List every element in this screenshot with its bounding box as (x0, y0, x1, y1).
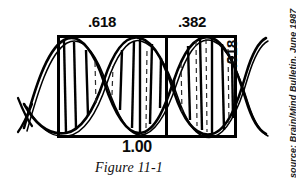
dna-double-helix-drawing (0, 0, 296, 184)
inner-rung (95, 62, 96, 104)
rung (120, 50, 122, 110)
rung (150, 44, 152, 124)
proportion-label-bottom: 1.00 (122, 139, 152, 155)
rung (74, 42, 76, 128)
proportion-label-top-left: .618 (88, 14, 116, 29)
rung (160, 58, 161, 108)
rung (188, 46, 190, 120)
proportion-label-right-vertical: .618 (224, 40, 239, 68)
figure-caption: Figure 11-1 (0, 160, 258, 176)
rung (200, 38, 202, 130)
rung (64, 41, 66, 133)
inner-rung (146, 48, 147, 128)
rung (86, 50, 88, 116)
rung (132, 41, 134, 128)
source-credit: source: Brain/Mind Bulletin, June 1987 (288, 9, 296, 178)
figure-container: .618 .382 1.00 .618 Figure 11-1 source: … (0, 0, 296, 184)
inner-rung (196, 41, 197, 126)
proportion-label-top-right: .382 (178, 14, 206, 29)
inner-rung (206, 39, 207, 132)
